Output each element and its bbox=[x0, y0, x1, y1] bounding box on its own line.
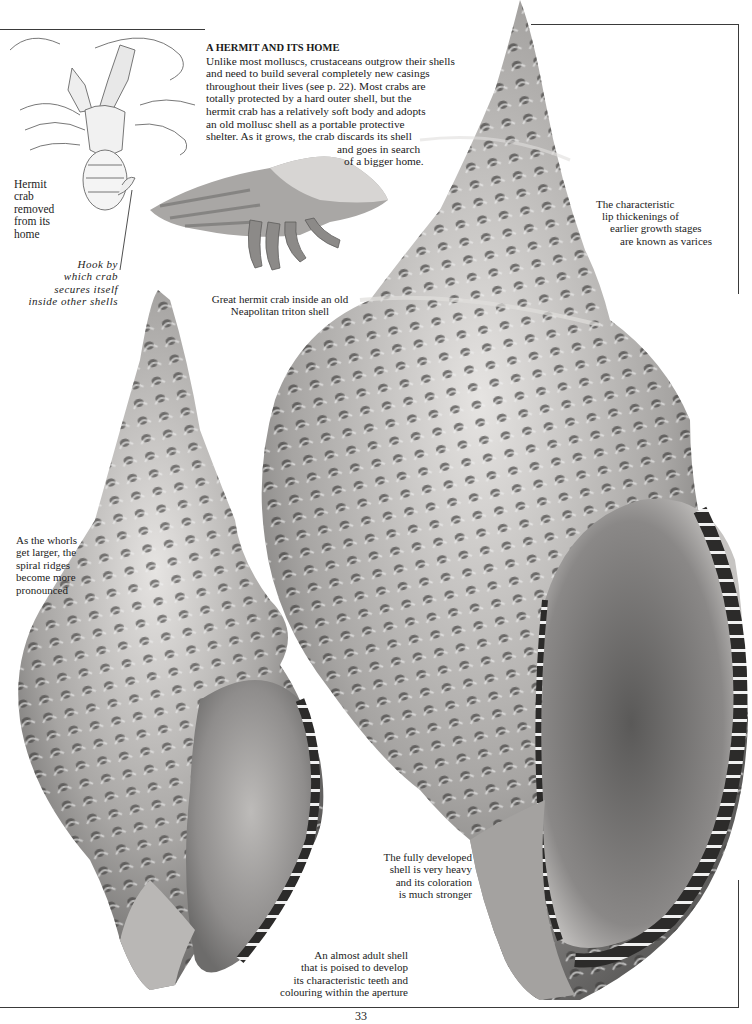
caption-fully-developed: The fully developed shell is very heavy … bbox=[362, 851, 472, 901]
body-line: an old mollusc shell as a portable prote… bbox=[206, 118, 455, 131]
crab-in-shell-photo bbox=[150, 156, 388, 270]
body-line: shelter. As it grows, the crab discards … bbox=[206, 130, 455, 143]
body-line: and need to build several completely new… bbox=[206, 67, 455, 80]
body-line: throughout their lives (see p. 22). Most… bbox=[206, 80, 455, 93]
caption-great-hermit: Great hermit crab inside an old Neapolit… bbox=[195, 293, 365, 318]
page-number: 33 bbox=[355, 1009, 367, 1024]
body-line: and goes in search bbox=[206, 143, 455, 156]
hook-pointer-line bbox=[120, 190, 132, 270]
body-line: Unlike most molluscs, crustaceans outgro… bbox=[206, 55, 455, 68]
caption-almost-adult: An almost adult shell that is poised to … bbox=[262, 949, 408, 999]
caption-varices: The characteristic lip thickenings of ea… bbox=[596, 198, 712, 247]
body-line: totally protected by a hard outer shell,… bbox=[206, 92, 455, 105]
body-line: of a bigger home. bbox=[206, 155, 455, 168]
caption-hermit-removed: Hermit crab removed from its home bbox=[14, 178, 54, 240]
body-line: hermit crab has a relatively soft body a… bbox=[206, 105, 455, 118]
article-heading: A HERMIT AND ITS HOME bbox=[206, 42, 455, 55]
intro-text-block: A HERMIT AND ITS HOME Unlike most mollus… bbox=[206, 42, 455, 168]
caption-hook: Hook by which crab secures itself inside… bbox=[28, 258, 118, 308]
caption-whorls: As the whorls get larger, the spiral rid… bbox=[16, 534, 77, 596]
